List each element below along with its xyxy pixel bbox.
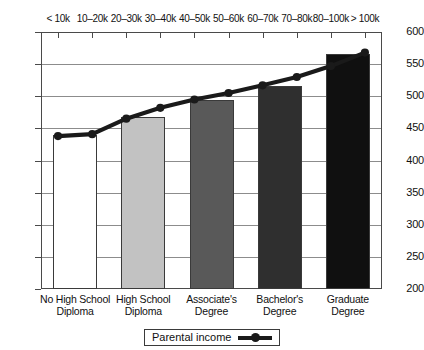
top-axis-tick	[297, 32, 298, 38]
top-axis-tick-label: 10–20k	[77, 14, 108, 24]
top-axis-tick-label: 50–60k	[213, 14, 244, 24]
y-axis-tick-label: 450	[390, 122, 424, 133]
top-axis-tick-label: 70–80k	[281, 14, 312, 24]
top-axis-tick-label: 30–40k	[145, 14, 176, 24]
top-axis-tick-label: 20–30k	[111, 14, 142, 24]
y-axis-tick-label: 350	[390, 187, 424, 198]
top-axis-tick	[331, 32, 332, 38]
bar	[190, 100, 234, 289]
y-axis-tick-label: 600	[390, 26, 424, 37]
bar	[258, 86, 302, 289]
top-axis-tick-label: 60–70k	[247, 14, 278, 24]
x-axis-category-label: Associate'sDegree	[186, 293, 237, 317]
top-axis-tick	[160, 32, 161, 38]
top-axis-tick	[58, 32, 59, 38]
y-axis-tick-label: 400	[390, 155, 424, 166]
chart-legend: Parental income	[144, 329, 280, 346]
top-axis-tick	[365, 32, 366, 38]
bar	[326, 54, 370, 289]
top-axis-tick	[229, 32, 230, 38]
top-axis-tick	[194, 32, 195, 38]
top-axis-tick	[126, 32, 127, 38]
y-axis-tick-label: 200	[390, 283, 424, 294]
bar	[53, 135, 97, 289]
chart-container: 600550500450400350300250200 < 10k10–20k2…	[0, 0, 424, 350]
top-axis-tick	[263, 32, 264, 38]
y-axis-tick	[35, 289, 41, 290]
top-axis-tick-label: 80–100k	[313, 14, 349, 24]
x-axis-category-label: Bachelor'sDegree	[256, 293, 303, 317]
legend-label-parental-income: Parental income	[152, 332, 232, 343]
top-axis-tick-label: 40–50k	[179, 14, 210, 24]
y-axis-tick-label: 550	[390, 58, 424, 69]
x-axis-category-label: No High SchoolDiploma	[40, 293, 110, 317]
y-axis-tick-label: 300	[390, 219, 424, 230]
x-axis-category-label: High SchoolDiploma	[116, 293, 170, 317]
y-axis-tick-label: 500	[390, 90, 424, 101]
bar	[121, 117, 165, 289]
top-axis-tick-label: < 10k	[46, 14, 69, 24]
x-axis-category-label: GraduateDegree	[327, 293, 369, 317]
top-axis-tick-label: > 100k	[351, 14, 380, 24]
legend-line-marker-icon	[238, 333, 272, 342]
top-axis-tick	[92, 32, 93, 38]
y-axis-tick-label: 250	[390, 251, 424, 262]
